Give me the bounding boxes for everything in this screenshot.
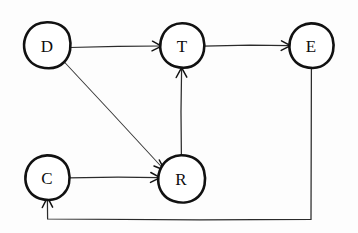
node-d[interactable]: D (24, 22, 70, 68)
edge-d-to-t[interactable] (70, 41, 162, 51)
node-e[interactable]: E (289, 23, 333, 67)
node-d-label: D (41, 37, 53, 56)
node-c[interactable]: C (25, 155, 69, 199)
edge-r-to-t-line (181, 69, 182, 157)
edge-r-to-t[interactable] (176, 68, 187, 156)
node-e-label: E (306, 37, 316, 56)
edge-c-to-r[interactable] (69, 173, 161, 183)
node-layer: D T E C R (24, 22, 334, 202)
edge-d-to-r[interactable] (65, 63, 165, 171)
node-r-label: R (175, 170, 187, 189)
edge-t-to-e-line (204, 45, 290, 46)
edge-c-to-r-line (69, 177, 160, 178)
node-r[interactable]: R (158, 155, 205, 202)
graph-canvas: D T E C R (0, 0, 358, 233)
edge-d-to-r-line (65, 63, 164, 170)
edge-t-to-e[interactable] (204, 41, 291, 51)
edge-d-to-t-line (70, 46, 161, 48)
graph-diagram: D T E C R (0, 0, 358, 233)
node-t-label: T (177, 37, 188, 56)
node-c-label: C (41, 169, 52, 188)
node-t[interactable]: T (160, 23, 204, 67)
